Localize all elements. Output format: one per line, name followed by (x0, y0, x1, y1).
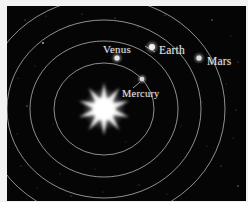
background-star (181, 126, 182, 127)
planet-body-venus (114, 55, 119, 60)
planet-label-venus[interactable]: Venus (103, 43, 131, 55)
background-star (235, 109, 236, 110)
background-star (18, 78, 19, 79)
background-star (138, 184, 139, 185)
planet-dot-mercury[interactable] (136, 73, 147, 84)
background-star (35, 66, 36, 67)
background-star (70, 195, 71, 196)
background-star (231, 36, 232, 37)
background-star (233, 138, 234, 139)
sky-background (7, 6, 246, 201)
background-star (26, 105, 27, 106)
background-star (95, 169, 96, 170)
planet-body-mars (196, 55, 201, 60)
background-star (220, 165, 221, 166)
background-star (37, 188, 38, 189)
background-star (103, 192, 104, 193)
background-star (24, 19, 25, 20)
background-star (202, 102, 203, 103)
background-star (164, 14, 165, 15)
planet-body-mercury (140, 77, 145, 82)
background-star (237, 185, 238, 186)
background-star (69, 25, 70, 26)
solar-system-svg (7, 6, 246, 201)
background-star (211, 19, 212, 20)
background-star (20, 165, 21, 166)
background-star (53, 124, 54, 125)
sun-core (95, 100, 114, 119)
background-star (82, 14, 83, 15)
background-star (138, 27, 139, 28)
background-star (195, 184, 196, 185)
background-star (60, 174, 61, 175)
background-star (237, 61, 238, 62)
sky-canvas: Venus Earth Mars Mercury (7, 6, 246, 201)
background-star (42, 42, 44, 44)
planet-label-mars[interactable]: Mars (207, 55, 231, 67)
background-star (167, 194, 168, 195)
background-star (226, 84, 227, 85)
planet-dot-earth[interactable] (145, 40, 159, 54)
background-star (46, 16, 47, 17)
planet-label-mercury[interactable]: Mercury (122, 88, 160, 99)
planet-label-earth[interactable]: Earth (159, 44, 185, 56)
planet-body-earth (149, 44, 155, 50)
planet-dot-mars[interactable] (193, 52, 205, 64)
background-star (126, 142, 127, 143)
background-star (114, 17, 115, 18)
figure-frame: Venus Earth Mars Mercury (0, 0, 248, 202)
background-star (17, 134, 18, 135)
background-star (207, 146, 208, 147)
